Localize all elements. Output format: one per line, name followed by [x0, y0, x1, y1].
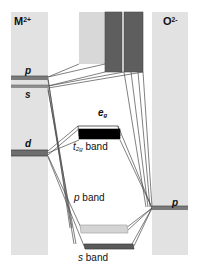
metal-d-level-label: d — [25, 139, 31, 149]
conduction-band-dark-block-a — [105, 12, 122, 72]
metal-s-level — [11, 85, 48, 88]
p-band-label: p band — [74, 193, 105, 203]
metal-cation-column — [11, 12, 48, 255]
metal-s-level-label: s — [25, 90, 31, 100]
metal-p-level-label: p — [25, 66, 31, 76]
oxygen-p-level-label: p — [172, 198, 178, 208]
oxide-anion-label: O2- — [163, 16, 178, 27]
s-band — [84, 244, 134, 249]
metal-cation-label: M2+ — [14, 16, 31, 27]
oxygen-p-level — [152, 206, 188, 210]
p-band — [80, 225, 128, 233]
oxide-anion-column — [152, 12, 188, 255]
metal-p-level — [11, 76, 48, 80]
eg-band-label: eg — [98, 108, 107, 119]
conduction-band-light-block — [79, 12, 105, 64]
diagram-canvas — [0, 0, 199, 273]
t2g-band-label: t2g band — [73, 142, 108, 153]
metal-d-level — [11, 150, 48, 156]
s-band-label: s band — [78, 253, 108, 263]
band-structure-diagram: M2+ O2- p s d p eg t2g band p band s ban… — [0, 0, 199, 273]
band-envelope-lines — [48, 78, 84, 246]
conduction-band-dark-block-b — [124, 12, 143, 72]
t2g-band — [79, 129, 120, 139]
